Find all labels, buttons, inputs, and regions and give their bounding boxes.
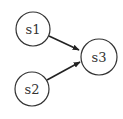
node-s2-label: s2 xyxy=(25,82,40,97)
node-s2: s2 xyxy=(15,72,49,106)
node-s3: s3 xyxy=(81,39,117,75)
edge-s1-s3 xyxy=(49,36,79,50)
edge-s2-s3 xyxy=(47,62,80,80)
node-s1: s1 xyxy=(16,12,50,46)
node-s3-label: s3 xyxy=(92,50,107,65)
graph-canvas: s1 s2 s3 xyxy=(0,0,123,119)
node-s1-label: s1 xyxy=(26,22,41,37)
